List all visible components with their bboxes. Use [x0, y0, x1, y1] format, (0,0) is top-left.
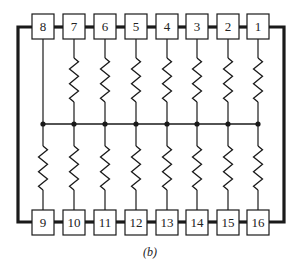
top-leg-2: [224, 39, 233, 127]
pin-label: 1: [255, 19, 262, 34]
bottom-leg-16: [254, 124, 263, 210]
top-leg-5: [132, 39, 141, 127]
resistor-icon: [39, 146, 48, 190]
pin-label: 8: [40, 19, 47, 34]
pin-box-9: 9: [32, 210, 54, 235]
bottom-leg-12: [132, 124, 141, 210]
pin-label: 4: [164, 19, 171, 34]
pin-label: 2: [225, 19, 232, 34]
pin-box-2: 2: [217, 14, 239, 39]
resistor-network-diagram: 87654321 910111213141516 (b): [0, 0, 300, 268]
bottom-leg-9: [39, 124, 48, 210]
pin-box-5: 5: [125, 14, 147, 39]
pin-label: 10: [68, 215, 81, 230]
pin-label: 9: [40, 215, 47, 230]
pin-box-7: 7: [63, 14, 85, 39]
pin-label: 15: [222, 215, 235, 230]
top-leg-7: [70, 39, 79, 127]
pin-label: 6: [102, 19, 109, 34]
resistor-icon: [193, 146, 202, 190]
resistor-icon: [163, 58, 172, 102]
pin-box-10: 10: [63, 210, 85, 235]
top-leg-6: [101, 39, 110, 127]
pin-label: 13: [161, 215, 174, 230]
pin-box-15: 15: [217, 210, 239, 235]
top-leg-4: [163, 39, 172, 127]
resistor-icon: [132, 146, 141, 190]
resistor-icon: [70, 58, 79, 102]
pin-box-8: 8: [32, 14, 54, 39]
resistor-icon: [163, 146, 172, 190]
pin-box-4: 4: [156, 14, 178, 39]
resistor-icon: [224, 58, 233, 102]
resistor-icon: [101, 146, 110, 190]
resistor-icon: [101, 58, 110, 102]
pin-box-13: 13: [156, 210, 178, 235]
resistor-icon: [193, 58, 202, 102]
pin-box-16: 16: [247, 210, 269, 235]
figure-caption: (b): [143, 245, 157, 259]
bottom-leg-14: [193, 124, 202, 210]
resistor-icon: [254, 146, 263, 190]
resistor-icon: [70, 146, 79, 190]
bottom-leg-10: [70, 124, 79, 210]
pin-box-11: 11: [94, 210, 116, 235]
outline-left: [18, 27, 32, 222]
pin-box-6: 6: [94, 14, 116, 39]
pin-label: 3: [194, 19, 201, 34]
top-leg-8: [40, 39, 45, 127]
pin-box-12: 12: [125, 210, 147, 235]
top-leg-3: [193, 39, 202, 127]
bottom-leg-15: [224, 124, 233, 210]
bottom-leg-11: [101, 124, 110, 210]
pin-label: 16: [252, 215, 266, 230]
resistor-icon: [132, 58, 141, 102]
resistor-icon: [224, 146, 233, 190]
pin-label: 5: [133, 19, 140, 34]
pin-box-1: 1: [247, 14, 269, 39]
top-leg-1: [254, 39, 263, 127]
pin-label: 14: [191, 215, 205, 230]
resistor-icon: [254, 58, 263, 102]
pin-label: 11: [99, 215, 112, 230]
pin-label: 7: [71, 19, 78, 34]
outline-right: [269, 27, 284, 222]
pin-box-3: 3: [186, 14, 208, 39]
pin-box-14: 14: [186, 210, 208, 235]
pin-label: 12: [130, 215, 143, 230]
bottom-leg-13: [163, 124, 172, 210]
